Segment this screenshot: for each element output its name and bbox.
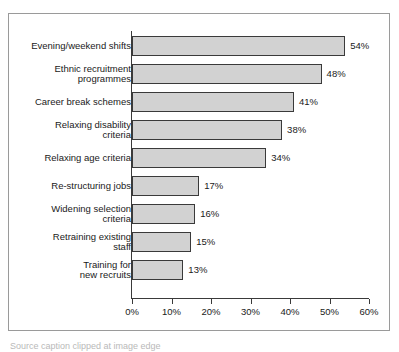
category-label: Widening selection criteria	[15, 204, 131, 225]
bar-value-label: 17%	[204, 176, 223, 196]
category-label: Retraining existing staff	[15, 232, 131, 253]
category-label: Ethnic recruitment programmes	[15, 64, 131, 85]
x-axis-tick-label: 40%	[270, 306, 310, 317]
bar-value-label: 38%	[287, 120, 306, 140]
bar	[132, 92, 294, 112]
x-axis-tick	[290, 299, 291, 304]
bar-value-label: 48%	[327, 64, 346, 84]
x-axis-tick	[251, 299, 252, 304]
bar-value-label: 15%	[196, 232, 215, 252]
category-label: Career break schemes	[15, 97, 131, 108]
bar-value-label: 41%	[299, 92, 318, 112]
source-caption: Source caption clipped at image edge	[10, 341, 390, 352]
x-axis-tick-label: 0%	[112, 306, 152, 317]
x-axis-tick-label: 20%	[191, 306, 231, 317]
category-label: Training for new recruits	[15, 260, 131, 281]
bar-value-label: 13%	[188, 260, 207, 280]
bar-value-label: 34%	[271, 148, 290, 168]
x-axis-tick-label: 10%	[152, 306, 192, 317]
bar-value-label: 16%	[200, 204, 219, 224]
x-axis-tick	[132, 299, 133, 304]
bar	[132, 64, 322, 84]
x-axis-tick-label: 60%	[349, 306, 389, 317]
bar	[132, 176, 199, 196]
category-label: Evening/weekend shifts	[15, 41, 131, 52]
x-axis-tick-label: 30%	[231, 306, 271, 317]
category-label: Relaxing age criteria	[15, 153, 131, 164]
bar	[132, 232, 191, 252]
figure: Evening/weekend shiftsEthnic recruitment…	[0, 0, 399, 352]
x-axis-tick-label: 50%	[310, 306, 350, 317]
chart-frame: Evening/weekend shiftsEthnic recruitment…	[8, 13, 390, 331]
bar	[132, 148, 266, 168]
bar	[132, 120, 282, 140]
category-label: Relaxing disability criteria	[15, 120, 131, 141]
category-label: Re-structuring jobs	[15, 181, 131, 192]
plot-area: Evening/weekend shiftsEthnic recruitment…	[9, 14, 391, 332]
bar	[132, 36, 345, 56]
bar-value-label: 54%	[350, 36, 369, 56]
bar	[132, 204, 195, 224]
x-axis-tick	[211, 299, 212, 304]
x-axis-tick	[172, 299, 173, 304]
bar	[132, 260, 183, 280]
x-axis-tick	[330, 299, 331, 304]
x-axis-tick	[369, 299, 370, 304]
